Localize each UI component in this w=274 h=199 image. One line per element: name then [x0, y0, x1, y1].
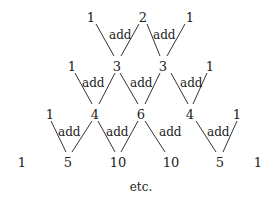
pascal-triangle-diagram: add add add add add add add add add 1 2 …: [0, 0, 274, 199]
row-1-item-0: 1: [68, 59, 76, 74]
row-2-item-1: 4: [91, 107, 99, 122]
add-label: add: [106, 125, 129, 139]
row-2-item-3: 4: [186, 107, 194, 122]
add-label: add: [153, 28, 176, 42]
row-3-item-1: 5: [64, 155, 72, 170]
row-2-item-2: 6: [137, 107, 145, 122]
row-2-item-4: 1: [233, 107, 241, 122]
add-label: add: [82, 76, 105, 90]
add-label: add: [159, 125, 182, 139]
add-label: add: [180, 76, 203, 90]
row-1-item-1: 3: [113, 59, 121, 74]
row-3-item-5: 1: [254, 155, 262, 170]
add-labels: add add add add add add add add add: [58, 28, 230, 139]
etc-footer: etc.: [130, 180, 152, 194]
row-3-item-3: 10: [163, 155, 180, 170]
row-0-item-1: 2: [139, 10, 147, 25]
row-1-item-2: 3: [159, 59, 167, 74]
row-0-item-2: 1: [186, 10, 194, 25]
row-0-item-0: 1: [87, 10, 95, 25]
add-label: add: [130, 76, 153, 90]
add-label: add: [207, 125, 230, 139]
row-2-item-0: 1: [46, 107, 54, 122]
row-1-item-3: 1: [206, 59, 214, 74]
add-label: add: [109, 28, 132, 42]
add-label: add: [58, 125, 81, 139]
row-3-item-0: 1: [18, 155, 26, 170]
row-3-item-4: 5: [216, 155, 224, 170]
row-3-item-2: 10: [110, 155, 127, 170]
diagram-canvas: add add add add add add add add add 1 2 …: [0, 0, 274, 199]
